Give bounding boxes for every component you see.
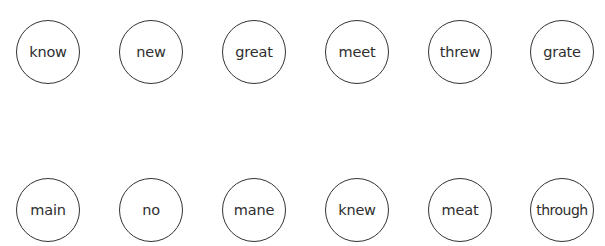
word-circle-new[interactable]: new bbox=[119, 20, 183, 84]
word-label: great bbox=[235, 44, 272, 60]
word-label: no bbox=[142, 202, 160, 218]
word-circle-meat[interactable]: meat bbox=[428, 178, 492, 242]
word-label: grate bbox=[543, 44, 581, 60]
word-label: meat bbox=[442, 202, 479, 218]
word-circle-knew[interactable]: knew bbox=[325, 178, 389, 242]
word-circle-mane[interactable]: mane bbox=[222, 178, 286, 242]
word-label: through bbox=[536, 202, 588, 218]
word-circle-great[interactable]: great bbox=[222, 20, 286, 84]
word-circle-main[interactable]: main bbox=[16, 178, 80, 242]
word-label: mane bbox=[234, 202, 274, 218]
word-circle-grate[interactable]: grate bbox=[530, 20, 594, 84]
word-label: meet bbox=[339, 44, 376, 60]
word-label: know bbox=[29, 44, 67, 60]
word-circle-meet[interactable]: meet bbox=[325, 20, 389, 84]
word-circle-through[interactable]: through bbox=[530, 178, 594, 242]
word-circle-threw[interactable]: threw bbox=[428, 20, 492, 84]
word-row-bottom: main no mane knew meat through bbox=[0, 178, 605, 246]
word-circle-no[interactable]: no bbox=[119, 178, 183, 242]
word-label: main bbox=[30, 202, 65, 218]
word-label: knew bbox=[338, 202, 376, 218]
word-label: new bbox=[136, 44, 165, 60]
word-label: threw bbox=[440, 44, 480, 60]
word-row-top: know new great meet threw grate bbox=[0, 20, 605, 88]
word-circle-know[interactable]: know bbox=[16, 20, 80, 84]
